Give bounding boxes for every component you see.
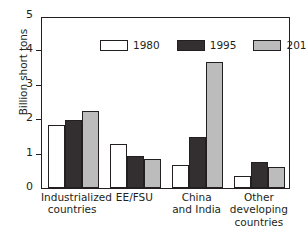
bar-group	[48, 18, 99, 188]
legend-label: 1995	[210, 40, 237, 51]
bar	[144, 159, 161, 188]
x-axis-category-line: Industrialized	[41, 191, 103, 203]
legend-item-1980: 1980	[100, 40, 160, 51]
legend-swatch	[253, 40, 281, 51]
chart-legend: 198019952015	[100, 40, 306, 51]
y-axis-tick-label: 3	[26, 78, 33, 90]
x-axis-category-line: EE/FSU	[103, 191, 165, 203]
x-axis-category-line: developing	[228, 203, 290, 215]
bar	[189, 137, 206, 188]
bar	[172, 165, 189, 188]
x-axis-category-line: and India	[166, 203, 228, 215]
legend-item-1995: 1995	[177, 40, 237, 51]
x-axis-category-label: Otherdevelopingcountries	[228, 191, 290, 228]
bar	[127, 156, 144, 188]
bar	[65, 120, 82, 188]
bar	[206, 62, 223, 188]
legend-item-2015: 2015	[253, 40, 306, 51]
x-axis-category-label: Chinaand India	[166, 191, 228, 216]
x-axis-category-line: Other	[228, 191, 290, 203]
x-axis-category-line: countries	[228, 216, 290, 228]
bar	[48, 125, 65, 188]
x-axis-category-label: EE/FSU	[103, 191, 165, 203]
legend-label: 2015	[286, 40, 306, 51]
bar	[251, 162, 268, 188]
x-axis-category-label: Industrializedcountries	[41, 191, 103, 216]
bar	[110, 144, 127, 188]
bar	[82, 111, 99, 188]
y-axis-tick-label: 0	[26, 181, 33, 193]
x-axis-category-line: China	[166, 191, 228, 203]
bar	[268, 167, 285, 188]
plot-area: 012345 198019952015	[41, 17, 290, 189]
x-axis-category-labels: IndustrializedcountriesEE/FSUChinaand In…	[41, 191, 290, 237]
legend-swatch	[100, 40, 128, 51]
y-axis-tick-label: 2	[26, 112, 33, 124]
y-axis-tick-label: 4	[26, 43, 33, 55]
y-axis-tick-label: 5	[26, 9, 33, 21]
bar	[234, 176, 251, 188]
legend-swatch	[177, 40, 205, 51]
x-axis-category-line: countries	[41, 203, 103, 215]
bar-chart-figure: Billion short tons 012345 198019952015 I…	[0, 0, 306, 239]
legend-label: 1980	[133, 40, 160, 51]
y-axis-tick-label: 1	[26, 147, 33, 159]
